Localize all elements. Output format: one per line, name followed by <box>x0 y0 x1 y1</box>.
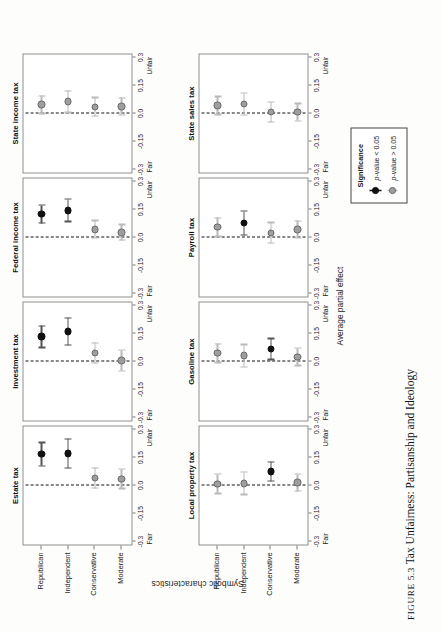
legend-item-not-significant: p-value > 0.05 <box>385 135 399 195</box>
error-bar-cap-low <box>118 239 125 240</box>
x-tick <box>132 180 135 181</box>
panel-frame <box>22 301 132 421</box>
x-tick <box>308 512 311 513</box>
data-point-independent <box>240 219 247 226</box>
panel-state-income-tax: State income tax-0.3-0.150.00.150.3FairU… <box>22 53 168 173</box>
x-tick <box>132 388 135 389</box>
error-bar-cap-high <box>38 204 45 205</box>
x-tick-label: 0.3 <box>312 300 319 309</box>
panel-frame <box>198 425 308 545</box>
x-tick <box>132 428 135 429</box>
data-point-moderate <box>293 353 300 360</box>
y-category-label-moderate: Moderate <box>292 552 301 583</box>
error-bar-cap-high <box>118 223 125 224</box>
error-bar-cap-high <box>294 347 301 348</box>
data-point-republican <box>213 101 220 108</box>
x-tick <box>308 208 311 209</box>
x-tick <box>132 540 135 541</box>
error-bar-cap-high <box>294 220 301 221</box>
x-tick <box>132 236 135 237</box>
error-bar-cap-high <box>118 468 125 469</box>
error-bar-cap-high <box>64 438 71 439</box>
y-tick <box>93 545 94 549</box>
error-bar-cap-low <box>214 492 221 493</box>
legend-item-significant: p-value < 0.05 <box>368 135 382 195</box>
x-tick <box>308 112 311 113</box>
x-tick-label: 0.0 <box>136 356 143 365</box>
error-bar-cap-low <box>214 361 221 362</box>
x-tick-label: -0.3 <box>136 163 143 174</box>
data-point-conservative <box>267 345 274 352</box>
error-bar-cap-high <box>214 95 221 96</box>
data-point-independent <box>240 100 247 107</box>
x-tick <box>132 140 135 141</box>
error-bar-cap-low <box>294 120 301 121</box>
error-bar-cap-low <box>118 114 125 115</box>
error-bar-cap-low <box>64 467 71 468</box>
x-tick-label: -0.15 <box>312 381 319 396</box>
panel-title: State income tax <box>10 53 19 173</box>
x-tick-label: -0.3 <box>136 287 143 298</box>
data-point-conservative <box>267 108 274 115</box>
x-tick <box>308 304 311 305</box>
zero-reference-line <box>25 236 129 237</box>
x-tick <box>308 332 311 333</box>
x-tick <box>132 292 135 293</box>
x-tick-label: 0.3 <box>312 176 319 185</box>
error-bar-cap-low <box>118 487 125 488</box>
panel-investment-tax: Investment tax-0.3-0.150.00.150.3FairUnf… <box>22 301 168 421</box>
x-axis: -0.3-0.150.00.150.3FairUnfair <box>132 301 162 421</box>
zero-reference-line <box>25 484 129 485</box>
x-tick <box>308 140 311 141</box>
data-point-independent <box>240 479 247 486</box>
error-bar-cap-low <box>38 222 45 223</box>
x-axis-right-end-label: Unfair <box>321 180 328 198</box>
y-tick <box>216 545 217 549</box>
x-axis-right-end-label: Unfair <box>145 304 152 322</box>
error-bar-cap-low <box>64 344 71 345</box>
x-tick <box>308 360 311 361</box>
data-point-moderate <box>293 225 300 232</box>
data-point-republican <box>37 100 44 107</box>
x-axis-right-end-label: Unfair <box>321 304 328 322</box>
x-axis-left-end-label: Fair <box>321 409 328 420</box>
caption-figure-number: FIGURE 5.3 <box>406 567 416 620</box>
data-point-conservative <box>91 474 98 481</box>
panel-state-sales-tax: State sales tax-0.3-0.150.00.150.3FairUn… <box>198 53 344 173</box>
data-point-moderate <box>117 475 124 482</box>
x-tick <box>308 292 311 293</box>
rotated-figure-wrapper: Symbolic characteristics Average partial… <box>0 0 442 633</box>
y-tick <box>296 545 297 549</box>
error-bar-cap-low <box>91 237 98 238</box>
y-tick <box>243 545 244 549</box>
error-bar-cap-low <box>91 115 98 116</box>
x-tick-label: -0.3 <box>136 411 143 422</box>
data-point-moderate <box>293 108 300 115</box>
y-tick <box>67 545 68 549</box>
x-tick-label: 0.0 <box>312 480 319 489</box>
error-bar-cap-low <box>294 237 301 238</box>
panel-title: Payroll tax <box>186 177 195 297</box>
x-tick-label: 0.3 <box>312 52 319 61</box>
panel-frame <box>22 425 132 545</box>
legend: Significance p-value < 0.05 <box>350 127 407 203</box>
x-axis: -0.3-0.150.00.150.3FairUnfair <box>132 425 162 545</box>
x-tick-label: -0.15 <box>312 257 319 272</box>
x-axis-left-end-label: Fair <box>321 285 328 296</box>
error-bar-cap-low <box>38 112 45 113</box>
data-point-independent <box>240 351 247 358</box>
y-tick <box>269 545 270 549</box>
x-tick-label: -0.15 <box>136 257 143 272</box>
data-point-conservative <box>267 229 274 236</box>
x-tick <box>132 484 135 485</box>
x-tick-label: 0.3 <box>136 176 143 185</box>
y-category-label-conservative: Conservative <box>89 552 98 595</box>
panel-gasoline-tax: Gasoline tax-0.3-0.150.00.150.3FairUnfai… <box>198 301 344 421</box>
error-bar-cap-low <box>267 358 274 359</box>
x-tick <box>308 484 311 485</box>
x-tick <box>132 264 135 265</box>
x-tick-label: 0.3 <box>136 424 143 433</box>
x-tick-label: 0.15 <box>312 203 319 216</box>
x-tick-label: 0.15 <box>136 327 143 340</box>
x-tick <box>308 168 311 169</box>
